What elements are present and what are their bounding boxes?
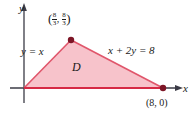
region-label-d: D <box>72 61 81 73</box>
vertex-dot-x-intercept <box>160 85 166 91</box>
math-figure-region-d: y x y = x x + 2y = 8 D (83, 83) (8, 0) <box>0 0 196 115</box>
y-axis-label: y <box>19 3 24 14</box>
vertex-label-apex: (83, 83) <box>48 12 71 28</box>
line-label-y-equals-x: y = x <box>21 46 44 57</box>
x-axis-label: x <box>183 83 188 94</box>
vertex-label-x-intercept: (8, 0) <box>146 98 168 108</box>
vertex-dot-apex <box>68 37 74 43</box>
line-label-x-plus-2y-equals-8: x + 2y = 8 <box>108 45 155 56</box>
paren-close: ) <box>66 11 70 26</box>
